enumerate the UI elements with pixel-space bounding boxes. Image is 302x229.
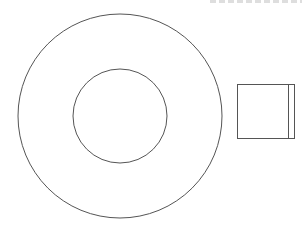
outer-circle xyxy=(18,14,222,218)
square-shape xyxy=(238,85,295,139)
inner-circle xyxy=(73,69,167,163)
drawing-canvas xyxy=(0,0,302,229)
